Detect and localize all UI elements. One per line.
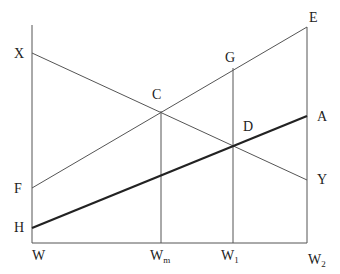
label-w1: W1 bbox=[221, 248, 239, 265]
label-e: E bbox=[309, 10, 318, 25]
label-a: A bbox=[317, 109, 328, 124]
label-y: Y bbox=[317, 172, 327, 187]
wage-diagram: X E G C D A F Y H W Wm W1 W2 bbox=[0, 0, 340, 274]
label-g: G bbox=[225, 50, 235, 65]
label-w: W bbox=[32, 248, 46, 263]
label-x: X bbox=[14, 46, 24, 61]
label-wm: Wm bbox=[150, 248, 170, 265]
line-xy bbox=[32, 53, 307, 180]
label-d: D bbox=[243, 119, 253, 134]
line-ha bbox=[32, 116, 307, 228]
label-h: H bbox=[14, 220, 24, 235]
label-w2: W2 bbox=[308, 252, 326, 269]
line-fe bbox=[32, 27, 307, 188]
label-f: F bbox=[14, 181, 22, 196]
label-c: C bbox=[152, 87, 161, 102]
